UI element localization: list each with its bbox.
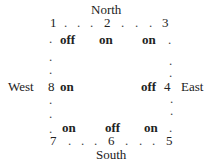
label-east: East: [181, 80, 203, 93]
dot: .: [152, 134, 155, 147]
dot: .: [149, 16, 152, 29]
node-1: 1: [50, 16, 57, 29]
dot: .: [64, 16, 67, 29]
dot: .: [125, 134, 128, 147]
dot: .: [90, 16, 93, 29]
dot: .: [94, 134, 97, 147]
switch-top-mid: on: [99, 33, 113, 46]
dot: .: [135, 16, 138, 29]
dot: .: [168, 33, 171, 46]
dot: .: [139, 134, 142, 147]
dot: .: [81, 134, 84, 147]
switch-top-left: off: [60, 33, 75, 46]
dot: .: [77, 16, 80, 29]
dot: .: [49, 93, 52, 106]
label-south: South: [96, 148, 126, 161]
dot: .: [49, 107, 52, 120]
switch-right: off: [141, 80, 156, 93]
switch-left: on: [60, 80, 74, 93]
node-7: 7: [50, 134, 57, 147]
dot: .: [49, 63, 52, 76]
dot: .: [121, 16, 124, 29]
node-6: 6: [108, 134, 115, 147]
dot: .: [68, 134, 71, 147]
switch-top-right: on: [142, 33, 156, 46]
dot: .: [170, 104, 173, 117]
label-west: West: [8, 80, 34, 93]
dot: .: [49, 32, 52, 45]
node-3: 3: [162, 16, 169, 29]
node-5: 5: [166, 134, 173, 147]
switch-bottom-right: on: [144, 121, 158, 134]
node-2: 2: [104, 16, 111, 29]
dot: .: [169, 66, 172, 79]
